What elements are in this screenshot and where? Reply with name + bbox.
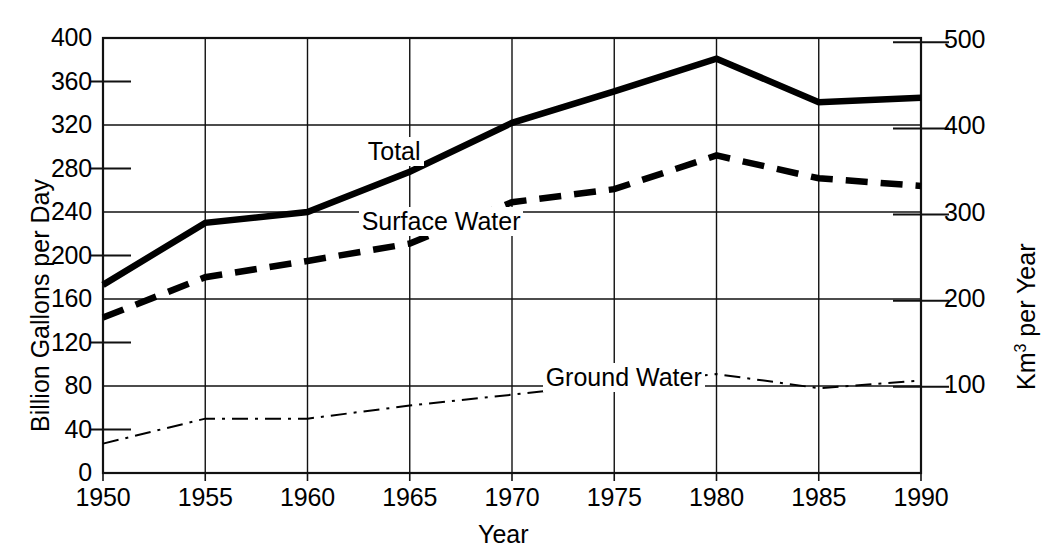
x-axis-tick-1950: 1950	[58, 485, 148, 510]
x-axis-tick-1970: 1970	[467, 485, 557, 510]
y-axis-tick-left-400: 400	[30, 25, 92, 50]
y-axis-tick-right-100: 100	[944, 372, 1006, 397]
y-axis-tick-left-280: 280	[30, 156, 92, 181]
y-axis-tick-right-300: 300	[944, 200, 1006, 225]
y-axis-tick-left-0: 0	[30, 460, 92, 485]
tick-marks	[91, 42, 949, 481]
y-axis-tick-right-400: 400	[944, 113, 1006, 138]
y-axis-tick-right-500: 500	[944, 27, 1006, 52]
y-axis-tick-left-360: 360	[30, 69, 92, 94]
grid-lines	[103, 38, 921, 473]
x-axis-tick-1990: 1990	[876, 485, 966, 510]
y-axis-title-left: Billion Gallons per Day	[26, 179, 55, 432]
y-axis-tick-right-200: 200	[944, 286, 1006, 311]
x-axis-tick-1980: 1980	[672, 485, 762, 510]
x-axis-tick-1975: 1975	[569, 485, 659, 510]
series-annotation-ground-water: Ground Water	[543, 363, 705, 392]
x-axis-title: Year	[478, 520, 529, 549]
x-axis-tick-1960: 1960	[263, 485, 353, 510]
y-axis-title-right-unit: Km	[1012, 353, 1040, 391]
y-axis-title-right-suffix: per Year	[1012, 244, 1040, 344]
series-annotation-total: Total	[365, 137, 424, 166]
x-axis-tick-1965: 1965	[365, 485, 455, 510]
y-axis-tick-left-320: 320	[30, 112, 92, 137]
x-axis-tick-1985: 1985	[774, 485, 864, 510]
series-annotation-surface-water: Surface Water	[359, 207, 524, 236]
x-axis-tick-1955: 1955	[160, 485, 250, 510]
y-axis-title-right-exponent: 3	[1012, 344, 1029, 353]
y-axis-title-right: Km3 per Year	[1012, 244, 1041, 391]
